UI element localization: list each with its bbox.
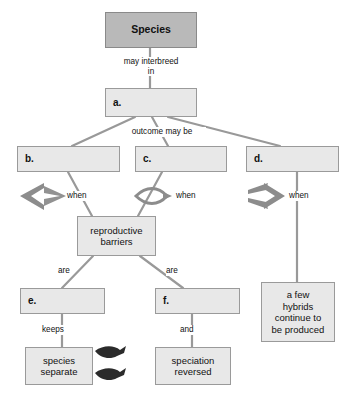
- link-label-and: and: [180, 325, 194, 335]
- may-interbreed-line-2: in: [104, 67, 198, 77]
- node-species-separate[interactable]: species separate: [25, 347, 93, 385]
- hybrids-line-3: continue to: [275, 312, 321, 324]
- node-species-label: Species: [131, 24, 171, 36]
- diverging-arrow-icon: [20, 183, 66, 210]
- node-speciation-reversed[interactable]: speciation reversed: [155, 347, 231, 385]
- node-f-label: f.: [156, 295, 169, 307]
- reversed-line-2: reversed: [175, 366, 212, 378]
- link-label-when-b: when: [67, 191, 87, 201]
- node-b-label: b.: [18, 153, 34, 165]
- lens-arrow-icon: [136, 189, 172, 204]
- node-d[interactable]: d.: [246, 146, 339, 172]
- node-reproductive-barriers[interactable]: reproductive barriers: [77, 216, 156, 256]
- converging-arrow-icon: [248, 183, 285, 209]
- node-e-label: e.: [21, 295, 36, 307]
- fish-icon: [95, 368, 126, 380]
- separate-line-1: species: [43, 355, 75, 367]
- node-a-label: a.: [106, 97, 121, 109]
- node-c[interactable]: c.: [135, 146, 227, 172]
- hybrids-line-4: be produced: [272, 324, 325, 336]
- link-label-when-c: when: [176, 191, 196, 201]
- link-label-are-right: are: [166, 266, 178, 276]
- barriers-line-1: reproductive: [90, 225, 142, 237]
- node-f[interactable]: f.: [155, 288, 240, 314]
- hybrids-line-1: a few: [287, 289, 310, 301]
- may-interbreed-line-1: may interbreed: [104, 57, 198, 67]
- node-e[interactable]: e.: [20, 288, 105, 314]
- link-label-when-d: when: [289, 191, 309, 201]
- node-species[interactable]: Species: [105, 12, 197, 48]
- node-hybrids[interactable]: a few hybrids continue to be produced: [261, 282, 335, 342]
- link-label-outcome-may-be: outcome may be: [118, 127, 206, 137]
- reversed-line-1: speciation: [172, 355, 215, 367]
- node-d-label: d.: [247, 153, 263, 165]
- node-a[interactable]: a.: [105, 88, 197, 117]
- connector-c-to-barriers: [138, 172, 162, 216]
- node-c-label: c.: [136, 153, 151, 165]
- barriers-line-2: barriers: [100, 236, 132, 248]
- fish-icon: [95, 346, 126, 358]
- separate-line-2: separate: [41, 366, 78, 378]
- hybrids-line-2: hybrids: [283, 301, 314, 313]
- link-label-may-interbreed: may interbreed in: [104, 57, 198, 76]
- link-label-are-left: are: [58, 266, 70, 276]
- link-label-keeps: keeps: [42, 325, 64, 335]
- node-b[interactable]: b.: [17, 146, 120, 172]
